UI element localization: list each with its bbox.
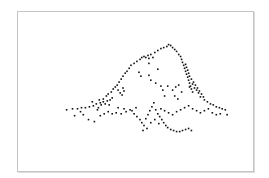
data-point <box>143 56 145 58</box>
data-point <box>208 108 210 110</box>
data-point <box>133 63 135 65</box>
data-point <box>103 113 105 115</box>
data-point <box>184 68 186 70</box>
data-point <box>188 72 190 74</box>
data-point <box>170 45 172 47</box>
data-point <box>191 130 193 132</box>
data-point <box>115 86 117 88</box>
data-point <box>112 88 114 90</box>
data-point <box>93 105 95 107</box>
data-point <box>133 113 135 115</box>
data-point <box>197 87 199 89</box>
data-point <box>161 119 163 121</box>
data-point <box>195 84 197 86</box>
data-point <box>182 130 184 132</box>
data-point <box>193 81 195 83</box>
data-point <box>88 119 90 121</box>
data-point <box>136 61 138 63</box>
data-point <box>157 50 159 52</box>
data-point <box>213 104 215 106</box>
data-point <box>94 121 96 123</box>
data-point <box>66 109 68 111</box>
data-point <box>96 103 98 105</box>
data-point <box>167 127 169 129</box>
data-point <box>151 106 153 108</box>
data-point <box>189 86 191 88</box>
data-point <box>191 78 193 80</box>
data-point <box>124 72 126 74</box>
data-point <box>74 115 76 117</box>
data-point <box>126 71 128 73</box>
data-point <box>154 52 156 54</box>
data-point <box>125 111 127 113</box>
data-point <box>198 92 200 94</box>
data-point <box>115 112 117 114</box>
data-point <box>185 71 187 73</box>
data-point <box>160 108 162 110</box>
data-point <box>122 87 124 89</box>
data-point <box>142 130 144 132</box>
data-point <box>174 95 176 97</box>
data-point <box>194 87 196 89</box>
data-point <box>145 57 147 59</box>
data-point <box>180 56 182 58</box>
data-point <box>100 102 102 104</box>
series-point-cloud <box>66 44 228 133</box>
data-point <box>89 106 91 108</box>
data-point <box>145 118 147 120</box>
data-point <box>200 96 202 98</box>
data-point <box>192 108 194 110</box>
data-point <box>199 90 201 92</box>
data-point <box>192 83 194 85</box>
data-point <box>99 99 101 101</box>
data-point <box>122 75 124 77</box>
data-point <box>226 114 228 116</box>
data-point <box>98 107 100 109</box>
data-point <box>83 114 85 116</box>
data-point <box>181 59 183 61</box>
data-point <box>85 107 87 109</box>
data-point <box>210 103 212 105</box>
data-point <box>150 122 152 124</box>
data-point <box>200 112 202 114</box>
data-point <box>129 109 131 111</box>
data-point <box>172 47 174 49</box>
data-point <box>117 107 119 109</box>
data-point <box>139 119 141 121</box>
data-point <box>116 84 118 86</box>
data-point <box>186 73 188 75</box>
data-point <box>121 94 123 96</box>
data-point <box>181 91 183 93</box>
data-point <box>77 108 79 110</box>
data-point <box>138 72 140 74</box>
data-point <box>97 109 99 111</box>
data-point <box>154 119 156 121</box>
data-point <box>158 123 160 125</box>
data-point <box>221 108 223 110</box>
data-point <box>130 65 132 67</box>
data-point <box>107 111 109 113</box>
data-point <box>155 82 157 84</box>
data-point <box>120 78 122 80</box>
data-point <box>188 79 190 81</box>
data-point <box>100 115 102 117</box>
data-point <box>160 85 162 87</box>
data-point <box>225 109 227 111</box>
data-point <box>219 107 221 109</box>
data-point <box>135 107 137 109</box>
data-point <box>111 113 113 115</box>
data-point <box>139 59 141 61</box>
data-point <box>117 89 119 91</box>
data-point <box>157 68 159 70</box>
data-point <box>166 46 168 48</box>
data-point <box>164 95 166 97</box>
data-point <box>207 101 209 103</box>
data-point <box>141 57 143 59</box>
data-point <box>147 55 149 57</box>
data-point <box>196 110 198 112</box>
data-point <box>216 114 218 116</box>
data-point <box>104 103 106 105</box>
data-point <box>140 75 142 77</box>
data-point <box>163 47 165 49</box>
data-point <box>136 116 138 118</box>
